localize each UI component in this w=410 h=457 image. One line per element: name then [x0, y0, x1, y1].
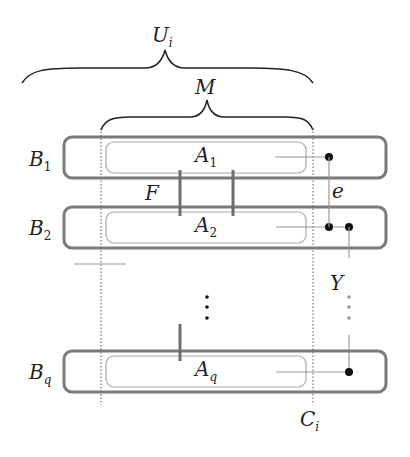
label-Bq: Bq	[28, 360, 52, 387]
brace-U	[22, 50, 313, 83]
row-ellipsis-dot-1	[205, 295, 209, 299]
vertex-dot-Bq	[345, 368, 353, 376]
label-B2: B2	[28, 216, 51, 243]
Y-ellipsis-dot-2	[347, 305, 351, 309]
label-F: F	[144, 181, 160, 205]
label-M: M	[194, 75, 216, 99]
label-C: Ci	[300, 407, 319, 434]
diagram-canvas: Ui M B1 A1 B2 A2 e F Y Bq Aq Ci	[0, 0, 410, 457]
Y-ellipsis-dot-1	[347, 295, 351, 299]
label-Aq: Aq	[193, 357, 217, 384]
row-ellipsis-dot-3	[205, 316, 209, 320]
label-B1: B1	[28, 147, 51, 174]
label-U: Ui	[152, 23, 173, 50]
outer-box-B1	[64, 137, 386, 178]
brace-M	[101, 100, 313, 130]
label-A1: A1	[193, 143, 217, 170]
row-ellipsis-dot-2	[205, 305, 209, 309]
Y-ellipsis-dot-3	[347, 316, 351, 320]
label-A2: A2	[193, 213, 217, 240]
label-Y: Y	[330, 271, 345, 295]
label-e: e	[332, 179, 344, 203]
